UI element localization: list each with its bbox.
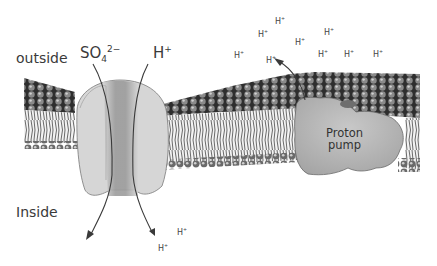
proton-outside: H+ [258,31,268,39]
proton-outside: H+ [344,51,354,59]
left-bilayer [24,78,80,149]
proton-inside: H+ [158,245,168,253]
sulfate-label: SO42− [80,46,120,61]
proton-outside: H+ [275,18,285,26]
proton-outside: H+ [295,39,305,47]
membrane-illustration [0,0,437,266]
proton-outside: H+ [324,29,334,37]
inside-label: Inside [16,205,58,219]
proton-outside: H+ [373,51,383,59]
proton-pump-label: Proton pump [326,128,363,151]
symporter-protein [77,80,169,196]
proton-inside: H+ [177,229,187,237]
proton-outside: H+ [234,52,244,60]
outside-label: outside [16,51,68,65]
proton-symport-label: H+ [153,46,172,61]
proton-outside: H+ [318,51,328,59]
membrane-transport-diagram: outside Inside SO42− H+ Proton pump H+ H… [0,0,437,266]
proton-outside: H+ [266,57,276,65]
